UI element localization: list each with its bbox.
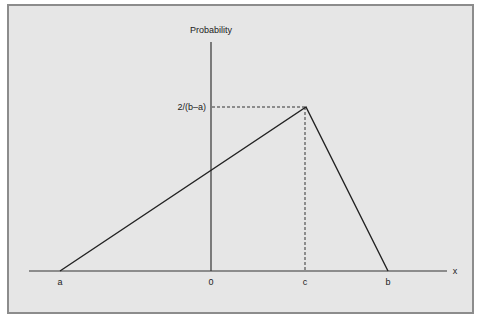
y-axis-label: Probability [190,25,233,35]
tick-label-b: b [385,277,390,287]
tick-label-a: a [57,277,62,287]
tick-label-0: 0 [208,277,213,287]
x-axis-label: x [453,266,458,276]
triangle-pdf-line [60,107,388,271]
tick-label-c: c [303,277,308,287]
peak-label: 2/(b–a) [177,102,206,112]
